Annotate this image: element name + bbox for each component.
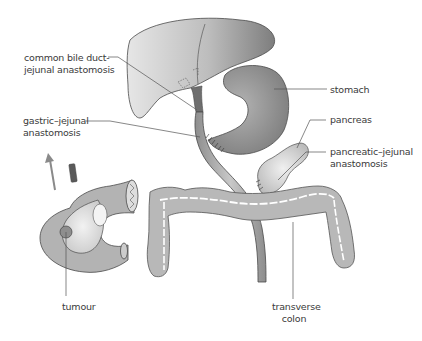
- label-gastric-jejunal-anastomosis: gastric–jejunal anastomosis: [23, 115, 89, 139]
- stomach: [208, 66, 289, 155]
- label-line: anastomosis: [23, 127, 89, 139]
- label-line: jejunal anastomosis: [24, 64, 115, 76]
- label-tumour: tumour: [62, 301, 96, 313]
- label-line: gastric–jejunal: [23, 115, 89, 127]
- transverse-colon: [147, 186, 354, 277]
- label-line: transverse: [272, 301, 316, 313]
- label-transverse-colon: transverse colon: [272, 301, 316, 325]
- label-cbd-jejunal-anastomosis: common bile duct- jejunal anastomosis: [24, 52, 115, 76]
- label-pancreas: pancreas: [330, 114, 372, 126]
- direction-arrow-icon: [45, 153, 55, 190]
- label-line: pancreatic–jejunal: [330, 146, 413, 158]
- resected-specimen: [40, 164, 138, 273]
- label-pancreatic-jejunal-anastomosis: pancreatic–jejunal anastomosis: [330, 146, 413, 170]
- common-bile-duct: [191, 86, 203, 112]
- label-line: colon: [272, 313, 316, 325]
- label-stomach: stomach: [330, 84, 369, 96]
- pancreas: [258, 143, 309, 194]
- label-line: common bile duct-: [24, 52, 115, 64]
- label-line: anastomosis: [330, 158, 413, 170]
